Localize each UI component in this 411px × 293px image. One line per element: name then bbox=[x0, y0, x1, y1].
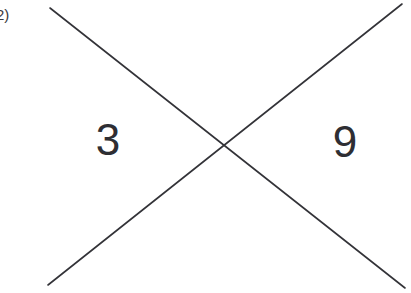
worksheet-canvas: 2) 3 9 bbox=[0, 0, 411, 293]
right-quadrant-value[interactable]: 9 bbox=[315, 120, 375, 164]
left-quadrant-value[interactable]: 3 bbox=[78, 118, 138, 162]
